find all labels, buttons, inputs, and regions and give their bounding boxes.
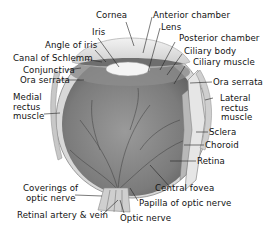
label-lateral-rectus-3: muscle <box>221 113 252 122</box>
lens-shape <box>106 62 150 76</box>
label-medial-rectus-3: muscle <box>13 112 44 121</box>
label-ciliary-body: Ciliary body <box>184 47 236 56</box>
label-conjunctiva: Conjunctiva <box>23 66 75 75</box>
label-posterior-chamber: Posterior chamber <box>179 34 260 43</box>
label-ora-serrata-right: Ora serrata <box>213 78 263 87</box>
label-sclera: Sclera <box>209 128 236 137</box>
label-ora-serrata-left: Ora serrata <box>20 76 70 85</box>
label-angle-of-iris: Angle of iris <box>45 41 97 50</box>
label-optic-nerve: Optic nerve <box>120 214 171 223</box>
label-retina: Retina <box>197 157 225 166</box>
label-retinal-artery-vein: Retinal artery & vein <box>17 211 108 220</box>
label-medial-rectus-1: Medial <box>13 93 42 102</box>
label-coverings-1: Coverings of <box>23 184 78 193</box>
label-cornea: Cornea <box>96 11 127 20</box>
label-papilla: Papilla of optic nerve <box>139 199 231 208</box>
label-choroid: Choroid <box>205 141 239 150</box>
label-lateral-rectus-1: Lateral <box>220 94 251 103</box>
label-lens: Lens <box>161 23 181 32</box>
label-coverings-2: optic nerve <box>26 194 76 203</box>
label-canal-of-schlemm: Canal of Schlemm <box>13 54 93 63</box>
label-iris: Iris <box>92 28 105 37</box>
label-central-fovea: Central fovea <box>155 184 214 193</box>
label-anterior-chamber: Anterior chamber <box>153 11 230 20</box>
label-ciliary-muscle: Ciliary muscle <box>193 58 255 67</box>
optic-nerve-shape <box>98 188 130 212</box>
